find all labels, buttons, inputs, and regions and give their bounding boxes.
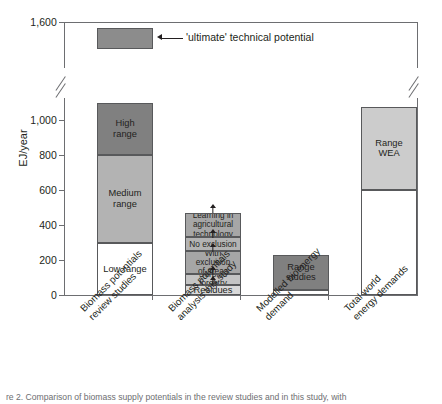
y-tick-label-1000: 1,000 xyxy=(30,114,57,126)
segment-ultimate-technical-potential xyxy=(97,28,153,49)
y-tick-1000 xyxy=(59,120,64,121)
y-tick-800 xyxy=(59,155,64,156)
y-tick-0 xyxy=(59,295,64,296)
annotation-leader-line xyxy=(162,38,183,39)
y-axis-break-left xyxy=(55,70,75,96)
x-tick-2 xyxy=(240,295,241,300)
top-axis-line xyxy=(64,22,418,23)
y-axis-line xyxy=(64,22,65,296)
plot-area: 0 200 400 600 800 1,000 1,600 Low range xyxy=(64,22,418,296)
y-axis-break-right xyxy=(408,70,428,96)
figure-container: EJ/year 0 200 400 600 800 1,000 1,600 xyxy=(0,0,442,404)
segment-high-range-label: Highrange xyxy=(112,118,138,139)
y-tick-label-600: 600 xyxy=(39,184,57,196)
segment-medium-range: Mediumrange xyxy=(97,155,153,243)
x-tick-3 xyxy=(328,295,329,300)
annotation-ultimate-technical-potential: 'ultimate' technical potential xyxy=(186,31,314,43)
segment-high-range: Highrange xyxy=(97,103,153,156)
x-tick-1 xyxy=(152,295,153,300)
segment-range-wea: RangeWEA xyxy=(361,107,417,190)
y-tick-label-400: 400 xyxy=(39,219,57,231)
segment-range-wea-label: RangeWEA xyxy=(374,138,403,159)
y-tick-200 xyxy=(59,260,64,261)
y-tick-400 xyxy=(59,225,64,226)
y-tick-label-800: 800 xyxy=(39,149,57,161)
y-tick-label-1600: 1,600 xyxy=(30,16,57,28)
figure-caption: re 2. Comparison of biomass supply poten… xyxy=(6,392,442,404)
y-axis-title: EJ/year xyxy=(17,129,29,166)
y-tick-1600 xyxy=(59,22,64,23)
y-tick-label-0: 0 xyxy=(51,289,57,301)
y-tick-label-200: 200 xyxy=(39,254,57,266)
segment-medium-range-label: Mediumrange xyxy=(107,188,142,209)
y-tick-600 xyxy=(59,190,64,191)
